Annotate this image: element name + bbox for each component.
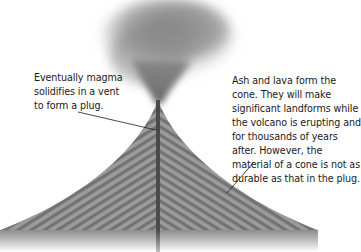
cone-label-line: cone. They will make <box>232 88 361 102</box>
cone-label-line: durable as that in the plug. <box>232 172 361 186</box>
plug <box>156 100 160 252</box>
plug-leader-line <box>78 112 156 130</box>
cone-label-line: for thousands of years <box>232 130 361 144</box>
cone-label-line: significant landforms while <box>232 102 361 116</box>
cone-label-line: material of a cone is not as <box>232 158 361 172</box>
plug-label: Eventually magma solidifies in a vent to… <box>34 71 122 113</box>
cone-label-line: the volcano is erupting and <box>232 116 361 130</box>
plug-label-line: solidifies in a vent <box>34 85 122 99</box>
cone-label-line: after. However, the <box>232 144 361 158</box>
plug-label-line: Eventually magma <box>34 71 122 85</box>
cone-label: Ash and lava form the cone. They will ma… <box>232 74 361 186</box>
cone-label-line: Ash and lava form the <box>232 74 361 88</box>
plug-label-line: to form a plug. <box>34 99 122 113</box>
